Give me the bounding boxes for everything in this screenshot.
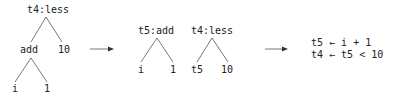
tree1-add-node: add: [20, 44, 38, 55]
tree2-i-leaf: i: [138, 64, 144, 75]
code-line-2: t4 ← t5 < 10: [311, 49, 383, 60]
tree3-t5-leaf: t5: [191, 64, 203, 75]
tree1-ten-node: 10: [58, 44, 70, 55]
tree1-one-leaf: 1: [44, 83, 50, 94]
code-line-1: t5 ← i + 1: [311, 37, 371, 48]
tree2-root-label: t5:add: [138, 25, 174, 36]
tree1-root-label: t4:less: [27, 4, 69, 15]
tree3-root-label: t4:less: [191, 25, 233, 36]
tree2-one-leaf: 1: [170, 64, 176, 75]
tree3-ten-leaf: 10: [221, 64, 233, 75]
tree1-i-leaf: i: [12, 83, 18, 94]
